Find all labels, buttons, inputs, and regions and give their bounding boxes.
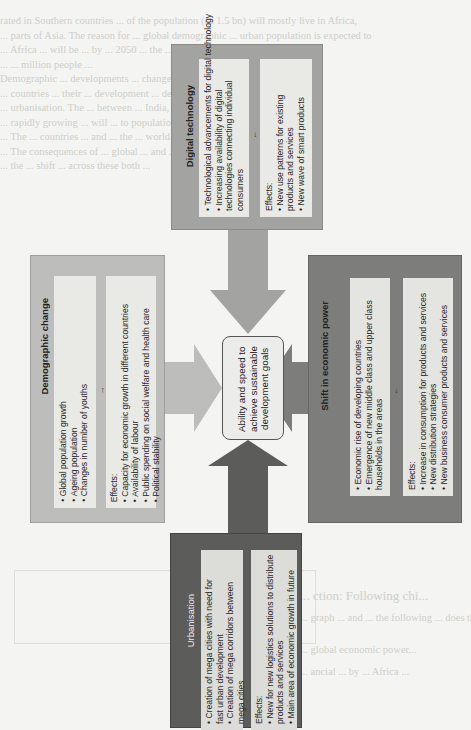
driver-item: Technological advancements for digital t… bbox=[203, 14, 214, 211]
effects-panel: Effects: New use patterns for existing p… bbox=[260, 59, 312, 217]
box-title: Shift in economic power bbox=[319, 301, 330, 411]
box-digital-technology: Digital technology Technological advance… bbox=[171, 44, 323, 230]
effects-label: Effects: bbox=[407, 293, 418, 490]
effects-panel: Effects: Capacity for economic growth in… bbox=[106, 276, 156, 508]
effects-label: Effects: bbox=[264, 61, 275, 211]
effect-item: New wave of smart products bbox=[296, 61, 307, 211]
demographic-stem bbox=[164, 362, 194, 414]
driver-item: Ageing population bbox=[69, 384, 80, 502]
down-arrow-icon bbox=[210, 290, 286, 334]
drivers-panel: Creation of mega cities with need for fa… bbox=[201, 550, 243, 730]
effect-item: New for new logistics solutions to distr… bbox=[265, 554, 286, 724]
right-arrow-icon bbox=[194, 344, 222, 432]
drivers-panel: Economic rise of developing countries Em… bbox=[350, 278, 390, 496]
drivers-panel: Global population growth Ageing populati… bbox=[54, 276, 96, 508]
drivers-panel: Technological advancements for digital t… bbox=[199, 59, 249, 217]
drivers-list: Global population growth Ageing populati… bbox=[58, 384, 90, 502]
driver-item: Increasing availability of digital techn… bbox=[214, 61, 246, 211]
effect-item: Main area of economic growth in future bbox=[286, 554, 297, 724]
box-demographic-change: Demographic change Global population gro… bbox=[30, 255, 165, 523]
arrow-icon: → bbox=[97, 387, 106, 395]
effects-list: Effects: New use patterns for existing p… bbox=[264, 61, 306, 211]
driver-item: Economic rise of developing countries bbox=[353, 280, 364, 490]
effects-label: Effects: bbox=[254, 554, 265, 724]
box-urbanisation: Urbanisation Creation of mega cities wit… bbox=[170, 533, 302, 728]
effects-panel: Effects: Increase in consumption for pro… bbox=[403, 278, 453, 496]
economic-stem bbox=[292, 362, 309, 414]
up-arrow-icon bbox=[208, 440, 288, 466]
center-goal-box: Ability and speed to achieve sustainable… bbox=[222, 336, 284, 440]
effect-item: Public spending on social welfare and he… bbox=[141, 304, 152, 502]
effects-list: Effects: Increase in consumption for pro… bbox=[407, 293, 449, 490]
box-title: Demographic change bbox=[39, 298, 50, 395]
box-title: Urbanisation bbox=[185, 594, 196, 647]
effect-item: Capacity for economic growth in differen… bbox=[120, 304, 131, 502]
effects-list: Effects: Capacity for economic growth in… bbox=[109, 304, 162, 502]
box-title: Digital technology bbox=[184, 85, 195, 167]
driver-item: Creation of mega corridors between mega … bbox=[225, 564, 246, 724]
effect-item: Political stability bbox=[151, 304, 162, 502]
drivers-list: Creation of mega cities with need for fa… bbox=[204, 564, 246, 724]
effects-label: Effects: bbox=[109, 304, 120, 502]
box-shift-in-economic-power: Shift in economic power Economic rise of… bbox=[308, 255, 462, 523]
urbanisation-stem bbox=[228, 465, 268, 535]
digital-stem bbox=[228, 228, 268, 290]
driver-item: Creation of mega cities with need for fa… bbox=[204, 564, 225, 724]
driver-item: Changes in number of youths bbox=[79, 384, 90, 502]
arrow-icon: → bbox=[393, 387, 402, 395]
effect-item: Increase in consumption for products and… bbox=[418, 293, 429, 490]
center-goal-label: Ability and speed to achieve sustainable… bbox=[226, 339, 281, 439]
effect-item: Availability of labour bbox=[130, 304, 141, 502]
effect-item: New distribution strategies bbox=[428, 293, 439, 490]
drivers-list: Technological advancements for digital t… bbox=[203, 14, 245, 211]
effect-item: New business consumer products and servi… bbox=[439, 293, 450, 490]
effects-list: Effects: New for new logistics solutions… bbox=[254, 554, 296, 724]
driver-item: Emergence of new middle class and upper … bbox=[364, 280, 385, 490]
driver-item: Global population growth bbox=[58, 384, 69, 502]
drivers-list: Economic rise of developing countries Em… bbox=[353, 280, 385, 490]
effects-panel: Effects: New for new logistics solutions… bbox=[251, 550, 297, 730]
effect-item: New use patterns for existing products a… bbox=[275, 61, 296, 211]
